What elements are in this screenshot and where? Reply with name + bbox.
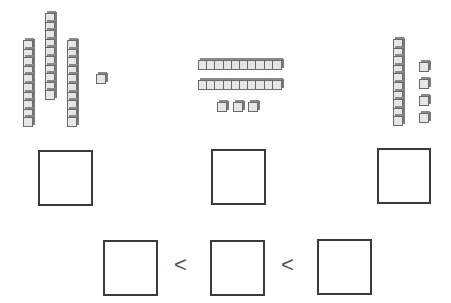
- unit-cube: [419, 96, 429, 106]
- unit-cube: [419, 79, 429, 89]
- unit-cube: [67, 117, 77, 127]
- unit-cube: [272, 80, 282, 90]
- unit-cube: [248, 102, 258, 112]
- base-ten-group-a: [0, 0, 120, 130]
- unit-cube: [45, 90, 55, 100]
- less-than-sign-2: <: [281, 254, 294, 276]
- unit-cube: [217, 102, 227, 112]
- less-than-sign-1: <: [174, 254, 187, 276]
- answer-box-group-c[interactable]: [377, 148, 431, 204]
- unit-cube: [233, 102, 243, 112]
- unit-cube: [393, 116, 403, 126]
- unit-cube: [419, 113, 429, 123]
- answer-box-group-b[interactable]: [211, 149, 266, 205]
- order-box-1[interactable]: [103, 240, 158, 296]
- answer-box-group-a[interactable]: [38, 150, 93, 206]
- unit-cube: [419, 62, 429, 72]
- order-box-2[interactable]: [210, 240, 265, 296]
- order-box-3[interactable]: [317, 239, 372, 295]
- unit-cube: [272, 60, 282, 70]
- unit-cube: [96, 74, 106, 84]
- unit-cube: [23, 117, 33, 127]
